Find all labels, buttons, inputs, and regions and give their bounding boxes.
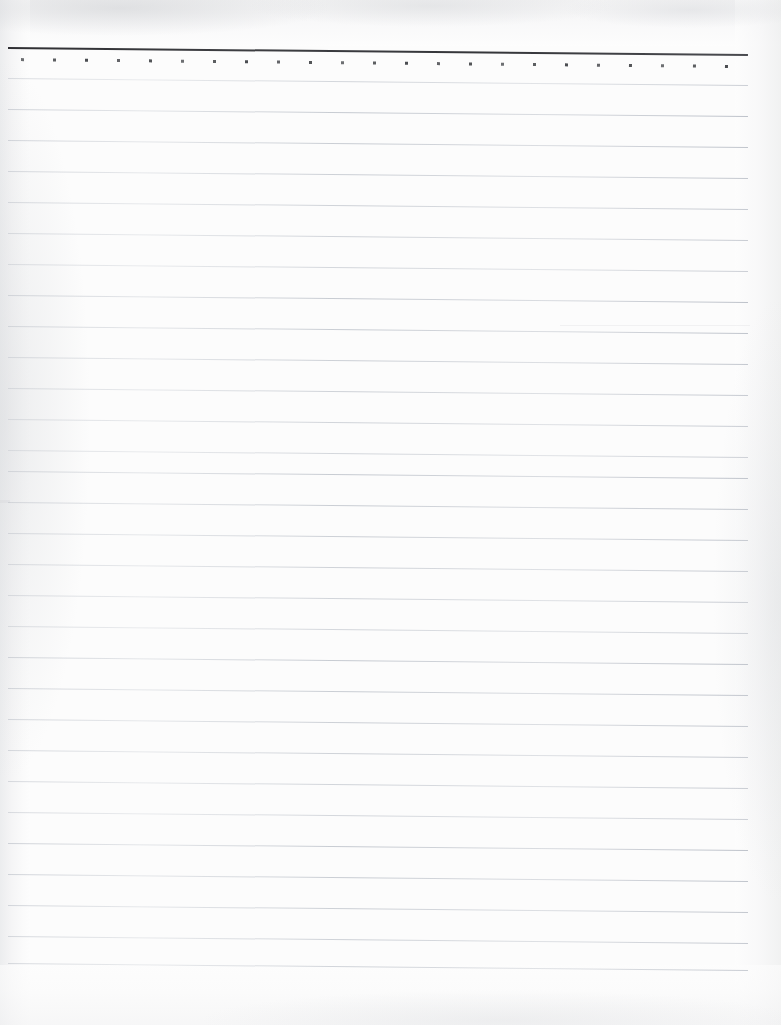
header-rule <box>8 47 748 56</box>
dot-marker <box>117 59 120 62</box>
page-content-area <box>8 70 750 970</box>
scanned-page <box>0 0 781 1025</box>
dot-marker <box>373 62 376 65</box>
dot-marker-row <box>8 58 748 69</box>
right-margin <box>750 0 781 1025</box>
dot-marker <box>629 64 632 67</box>
dot-marker <box>341 61 344 64</box>
bottom-margin <box>0 970 781 1025</box>
dot-marker <box>661 64 664 67</box>
dot-marker <box>21 58 24 61</box>
dot-marker <box>501 63 504 66</box>
dot-marker <box>181 60 184 63</box>
dot-marker <box>85 59 88 62</box>
dot-marker <box>149 59 152 62</box>
dot-marker <box>405 62 408 65</box>
dot-marker <box>597 64 600 67</box>
dot-marker <box>533 63 536 66</box>
dot-marker <box>245 60 248 63</box>
dot-marker <box>565 63 568 66</box>
dot-marker <box>309 61 312 64</box>
dot-marker <box>277 61 280 64</box>
dot-marker <box>693 65 696 68</box>
dot-marker <box>725 65 728 68</box>
dot-marker <box>437 62 440 65</box>
dot-marker <box>469 62 472 65</box>
dot-marker <box>53 58 56 61</box>
dot-marker <box>213 60 216 63</box>
